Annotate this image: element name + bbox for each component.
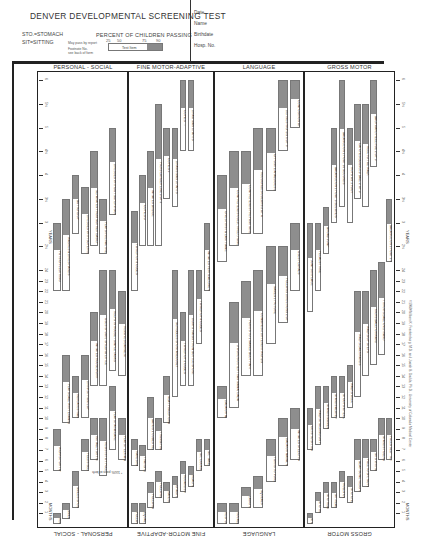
patient-meta: Date Name Birthdate Hosp. No. xyxy=(194,10,224,54)
test-item-bar: SMILES RESPONSIVELY xyxy=(62,503,70,519)
bar-75-90-segment xyxy=(242,488,250,496)
test-item-bar: FOLLOWS TO MIDLINE xyxy=(131,503,138,524)
test-item-bar: 3 WORDS OTHER THAN MAMA, DADA xyxy=(229,302,239,408)
test-item-label: SCRIBBLES SPONTANEOUSLY xyxy=(174,322,179,396)
meta-hosp-no: Hosp. No. xyxy=(194,43,224,54)
meta-date: Date xyxy=(194,10,224,21)
test-item-label: RESPONDS TO BELL xyxy=(219,512,227,524)
age-tick xyxy=(396,418,400,419)
test-item-bar: RESISTS TOY PULL xyxy=(99,418,107,476)
test-item-label: REACHES FOR OBJECT xyxy=(190,475,195,487)
test-item-label: IMITATES HOUSEWORK xyxy=(92,343,98,386)
test-item-label: KICKS BALL FORWARD xyxy=(372,309,376,364)
bar-75-90-segment xyxy=(164,377,169,395)
test-item-bar: PEDALS TRIKE xyxy=(315,223,321,292)
age-tick-label: 18 xyxy=(44,332,48,336)
age-tick-label: 5½ xyxy=(44,102,48,107)
age-tick xyxy=(39,302,43,303)
age-tick-label: 18 xyxy=(401,332,405,336)
test-item-bar: IMITATES VERTICAL LINE WITHIN 30° xyxy=(204,223,211,292)
age-tick xyxy=(39,376,43,377)
age-tick xyxy=(396,128,400,129)
test-item-bar: THUMB-FINGER GRASP xyxy=(155,418,162,450)
test-item-bar: PULLS SELF TO STAND xyxy=(386,418,392,460)
test-item-bar: SCRIBBLES SPONTANEOUSLY xyxy=(172,270,179,397)
age-tick xyxy=(396,246,400,247)
test-item-label: TOWER OF 8 CUBES xyxy=(133,244,138,291)
test-item-label: BALANCE ON 1 FOOT 5 SECONDS xyxy=(333,167,337,222)
bar-75-90-segment xyxy=(379,263,383,298)
test-item-label: BEAR SOME WEIGHT ON LEGS xyxy=(356,461,360,492)
test-item-label: IMITATES BRIDGE xyxy=(149,190,154,245)
test-item-label: NAMES 1 PICTURE xyxy=(268,286,276,343)
test-item-label: TOWER OF 2 CUBES xyxy=(182,343,187,386)
bar-75-90-segment xyxy=(387,419,391,435)
bar-75-90-segment xyxy=(197,440,202,452)
bar-75-90-segment xyxy=(218,176,226,209)
test-item-bar: NAMES 1 PICTURE xyxy=(266,246,276,344)
test-item-label: PLAYS INTERACTIVE GAMES I.E. TAG xyxy=(101,222,107,254)
test-item-label: PULL TO SIT, NO HEAD LAG xyxy=(364,459,368,487)
test-item-label: COMPREHENDS COLD, TIRED, HUNGRY xyxy=(231,190,239,245)
test-item-label: STOOPS & RECOVERS xyxy=(341,394,345,419)
test-item-label: WASHES & DRIES HANDS xyxy=(64,237,70,291)
test-item-bar: HANDS TOGETHER xyxy=(163,482,170,503)
test-item-bar: WORKS FOR TOY OUT OF REACH xyxy=(53,429,61,471)
test-item-bar: STOOPS & RECOVERS xyxy=(339,376,345,418)
age-tick-label: 6 xyxy=(44,78,48,80)
test-item-label: IMITATES SPEECH SOUNDS xyxy=(292,430,300,461)
test-item-bar: CATCHES BOUNCED BALL 2 OF 3 xyxy=(354,104,360,199)
test-item-bar: STO. HEAD UP 90° xyxy=(323,482,329,508)
test-item-label: SQUEALS xyxy=(255,490,263,508)
age-tick xyxy=(396,408,400,409)
test-item-label: WALKS HOLDING ON FURNITURE xyxy=(317,410,321,444)
test-item-bar: OPPOSITE ANALOGIES 2 OF 3 xyxy=(266,128,276,191)
test-item-bar: ROLLS OVER xyxy=(339,471,345,497)
test-item-bar: FOLLOWS DIRECTIONS 2 OF 3 xyxy=(278,246,288,323)
test-item-bar: FEEDS SELF CRACKERS xyxy=(81,439,89,471)
age-tick xyxy=(39,355,43,356)
test-item-bar: JUMPS IN PLACE xyxy=(307,223,313,313)
test-item-bar: DUMPS RAISIN FROM BOTTLE-SPONT. xyxy=(188,270,195,386)
age-tick-label: 22 xyxy=(44,289,48,293)
test-item-label: HOPS ON 1 FOOT xyxy=(349,167,353,222)
age-tick-label: 19 xyxy=(401,321,405,325)
bar-75-90-segment xyxy=(332,483,336,493)
bar-75-90-segment xyxy=(267,129,275,153)
legend-note-back: see back of form xyxy=(68,51,93,55)
test-item-label: STO. CHEST UP-ARM SUPPORT xyxy=(349,488,353,503)
test-item-label: GIVES FIRST & LAST NAME xyxy=(219,211,227,262)
test-item-label: COMBINES 2 DIFFERENT WORDS xyxy=(255,313,263,374)
test-item-bar: KICKS BALL FORWARD xyxy=(370,270,376,365)
age-tick xyxy=(396,281,400,282)
test-item-label: WALKS WELL xyxy=(349,383,353,408)
age-tick xyxy=(39,503,43,504)
age-tick-label: 13 xyxy=(401,384,405,388)
bar-75-90-segment xyxy=(230,504,238,512)
bar-75-90-segment xyxy=(173,129,178,159)
bar-75-90-segment xyxy=(119,419,125,435)
test-item-bar: STANDS MOMENTARILY xyxy=(323,386,329,428)
age-tick xyxy=(396,513,400,514)
test-item-bar: TOWER OF 4 CUBES xyxy=(196,270,203,344)
bar-75-90-segment xyxy=(156,419,161,431)
bar-75-90-segment xyxy=(173,477,178,485)
bar-75-90-segment xyxy=(181,462,186,474)
age-tick-label: 17 xyxy=(44,342,48,346)
test-item-label: SIT-HEAD STEADY xyxy=(333,494,337,509)
test-item-bar: COMPREHENDS PREPOSITIONS xyxy=(241,151,251,234)
bar-75-90-segment xyxy=(100,271,106,315)
test-item-bar: DRAWS MAN 3 PARTS xyxy=(172,128,179,207)
test-item-bar: GRASPS RATTLE xyxy=(172,476,179,497)
age-tick-label: 4 xyxy=(401,173,405,175)
test-item-bar: INITIALLY SHY WITH STRANGERS xyxy=(90,418,98,460)
test-item-label: FOLLOWS PAST MIDLINE xyxy=(149,494,154,509)
age-tick-label: 7 xyxy=(401,448,405,450)
bar-75-90-segment xyxy=(148,398,153,418)
age-tick xyxy=(39,513,43,514)
age-tick-label: 8 xyxy=(401,437,405,439)
test-item-bar: USES SPOON, SPILLING LITTLE xyxy=(99,270,107,386)
bar-75-90-segment xyxy=(371,271,375,307)
test-item-label: PULLS SELF TO STAND xyxy=(388,436,392,461)
bar-75-90-segment xyxy=(387,200,391,224)
